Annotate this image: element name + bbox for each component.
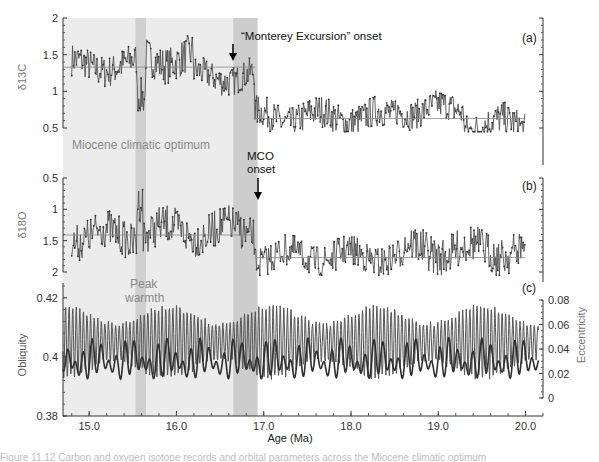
data-point bbox=[486, 233, 488, 235]
data-point bbox=[415, 105, 417, 107]
data-point bbox=[407, 126, 409, 128]
data-point bbox=[90, 52, 92, 54]
data-point bbox=[447, 113, 449, 115]
data-point bbox=[464, 237, 466, 239]
data-point bbox=[438, 247, 440, 249]
data-point bbox=[212, 77, 214, 79]
data-point bbox=[167, 82, 169, 84]
data-point bbox=[157, 225, 159, 227]
data-point bbox=[219, 208, 221, 210]
data-point bbox=[252, 74, 254, 76]
data-point bbox=[172, 72, 174, 74]
data-point bbox=[475, 236, 477, 238]
data-point bbox=[368, 260, 370, 262]
data-point bbox=[150, 48, 152, 50]
data-point bbox=[248, 231, 250, 233]
data-point bbox=[391, 268, 393, 270]
data-point bbox=[82, 64, 84, 66]
data-point bbox=[191, 239, 193, 241]
y-tick-label-right: 0.08 bbox=[548, 294, 569, 306]
data-point bbox=[76, 240, 78, 242]
panel-label-b: (b) bbox=[522, 179, 537, 193]
data-point bbox=[490, 131, 492, 133]
data-point bbox=[83, 55, 85, 57]
data-point bbox=[321, 274, 323, 276]
data-point bbox=[347, 131, 349, 133]
data-point bbox=[220, 73, 222, 75]
data-point bbox=[398, 107, 400, 109]
data-point bbox=[123, 225, 125, 227]
data-point bbox=[518, 262, 520, 264]
data-point bbox=[264, 110, 266, 112]
data-point bbox=[366, 107, 368, 109]
data-point bbox=[135, 71, 137, 73]
data-point bbox=[94, 215, 96, 217]
y-tick-label: 0.38 bbox=[37, 410, 58, 422]
data-point bbox=[464, 125, 466, 127]
data-point bbox=[269, 130, 271, 132]
data-point bbox=[463, 119, 465, 121]
data-point bbox=[383, 124, 385, 126]
data-point bbox=[177, 53, 179, 55]
data-point bbox=[397, 240, 399, 242]
data-point bbox=[279, 115, 281, 117]
data-point bbox=[332, 267, 334, 269]
data-point bbox=[156, 53, 158, 55]
data-point bbox=[406, 123, 408, 125]
data-point bbox=[290, 124, 292, 126]
data-point bbox=[471, 238, 473, 240]
data-point bbox=[208, 214, 210, 216]
data-point bbox=[511, 247, 513, 249]
data-point bbox=[291, 245, 293, 247]
data-point bbox=[279, 260, 281, 262]
data-point bbox=[498, 111, 500, 113]
data-point bbox=[473, 229, 475, 231]
data-point bbox=[268, 258, 270, 260]
data-point bbox=[274, 108, 276, 110]
data-point bbox=[358, 106, 360, 108]
data-point bbox=[378, 274, 380, 276]
data-point bbox=[214, 245, 216, 247]
data-point bbox=[197, 228, 199, 230]
data-point bbox=[180, 72, 182, 74]
data-point bbox=[520, 122, 522, 124]
data-point bbox=[494, 110, 496, 112]
data-point bbox=[499, 113, 501, 115]
data-point bbox=[492, 267, 494, 269]
data-point bbox=[142, 189, 144, 191]
data-point bbox=[224, 207, 226, 209]
data-point bbox=[501, 104, 503, 106]
data-point bbox=[341, 248, 343, 250]
data-point bbox=[379, 121, 381, 123]
data-point bbox=[178, 214, 180, 216]
data-point bbox=[399, 111, 401, 113]
data-point bbox=[77, 256, 79, 258]
data-point bbox=[513, 234, 515, 236]
data-point bbox=[314, 107, 316, 109]
data-point bbox=[456, 248, 458, 250]
data-point bbox=[431, 105, 433, 107]
data-point bbox=[256, 121, 258, 123]
data-point bbox=[159, 226, 161, 228]
miocene-optimum-label: Miocene climatic optimum bbox=[72, 138, 210, 152]
data-point bbox=[87, 220, 89, 222]
y-tick-label: 0.5 bbox=[43, 122, 58, 134]
data-point bbox=[430, 236, 432, 238]
data-point bbox=[428, 114, 430, 116]
data-point bbox=[93, 54, 95, 56]
data-point bbox=[392, 244, 394, 246]
data-point bbox=[241, 245, 243, 247]
data-point bbox=[204, 68, 206, 70]
data-point bbox=[129, 53, 131, 55]
data-point bbox=[322, 126, 324, 128]
data-point bbox=[231, 69, 233, 71]
data-point bbox=[306, 113, 308, 115]
data-point bbox=[260, 119, 262, 121]
data-point bbox=[372, 97, 374, 99]
data-point bbox=[85, 56, 87, 58]
data-point bbox=[265, 249, 267, 251]
data-point bbox=[362, 252, 364, 254]
data-point bbox=[474, 131, 476, 133]
data-point bbox=[104, 245, 106, 247]
data-point bbox=[113, 222, 115, 224]
